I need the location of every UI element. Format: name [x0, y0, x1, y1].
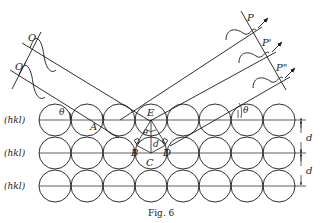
label-e: E [146, 107, 155, 118]
label-p-prime: P' [261, 37, 271, 48]
label-p: P [246, 12, 254, 23]
theta-label-center: θ [143, 128, 148, 137]
spacing-label-center: d [153, 139, 159, 149]
spacing-label-2: d [306, 165, 312, 176]
theta-label-right: θ [243, 105, 249, 115]
label-b: B [130, 147, 138, 158]
label-p-double-prime: P" [275, 62, 287, 73]
plane-label-2: (hkl) [4, 148, 26, 158]
spacing-label-1: d [306, 132, 312, 143]
theta-label-left: θ [59, 107, 65, 117]
label-d: D [162, 147, 171, 158]
figure-caption: Fig. 6 [148, 208, 175, 218]
label-o: O [28, 32, 36, 43]
bragg-diagram: (hkl) (hkl) (hkl) d d [0, 0, 320, 223]
plane-label-3: (hkl) [4, 181, 26, 191]
label-a: A [89, 121, 97, 132]
label-o-prime: O' [15, 61, 26, 72]
incident-rays [10, 43, 150, 138]
diffracted-waves [226, 29, 283, 88]
plane-label-1: (hkl) [4, 115, 26, 125]
label-c: C [146, 157, 154, 168]
plane-labels: (hkl) (hkl) (hkl) [4, 115, 26, 191]
